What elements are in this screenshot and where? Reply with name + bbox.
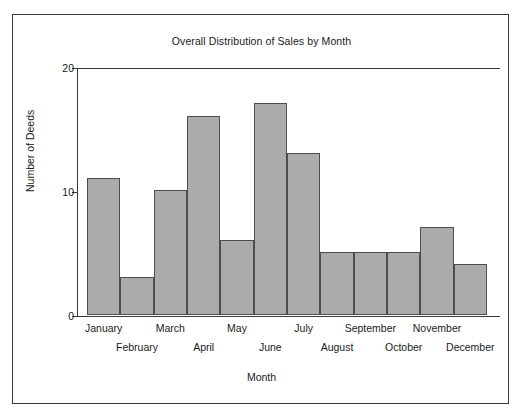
x-tick-label-december: December: [446, 341, 494, 353]
x-tick-label-august: August: [321, 341, 354, 353]
x-tick-label-march: March: [156, 322, 185, 334]
x-tick-label-june: June: [259, 341, 282, 353]
bar-december: [454, 264, 487, 315]
y-tick-label: 20: [62, 62, 74, 74]
x-tick-label-september: September: [345, 322, 396, 334]
bar-october: [387, 252, 420, 315]
bar-march: [154, 190, 187, 315]
x-tick-label-january: January: [85, 322, 122, 334]
x-axis-line: [77, 316, 500, 317]
bar-july: [287, 153, 320, 315]
x-axis-title: Month: [0, 371, 523, 383]
bar-april: [187, 116, 220, 315]
chart-title: Overall Distribution of Sales by Month: [0, 35, 523, 47]
bar-august: [320, 252, 353, 315]
y-tick-label: 10: [62, 186, 74, 198]
bar-january: [87, 178, 120, 315]
bar-september: [354, 252, 387, 315]
figure: Overall Distribution of Sales by Month 0…: [0, 0, 523, 417]
y-tick-label: 0: [68, 310, 74, 322]
x-tick-label-february: February: [116, 341, 158, 353]
bar-june: [254, 103, 287, 315]
bar-february: [120, 277, 153, 315]
plot-area: 01020: [77, 68, 500, 316]
y-axis-title: Number of Deeds: [24, 110, 36, 192]
x-tick-label-april: April: [193, 341, 214, 353]
axis-top-rule: [77, 68, 500, 69]
bar-november: [420, 227, 453, 315]
x-tick-label-november: November: [413, 322, 461, 334]
bar-may: [220, 240, 253, 315]
x-tick-label-july: July: [294, 322, 313, 334]
y-axis-line: [77, 68, 78, 317]
x-tick-label-may: May: [227, 322, 247, 334]
x-tick-label-october: October: [385, 341, 422, 353]
